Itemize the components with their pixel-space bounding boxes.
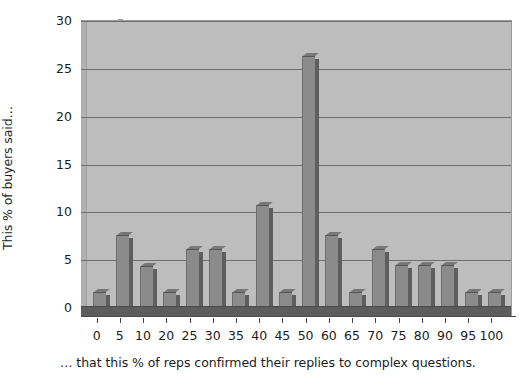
bar-side-face bbox=[269, 208, 273, 310]
x-axis-tick-mark bbox=[352, 318, 353, 323]
bar bbox=[465, 292, 478, 307]
bar-top-edge bbox=[233, 292, 245, 293]
bar-top-edge bbox=[466, 292, 478, 293]
y-axis-tick-labels: 051015202530 bbox=[42, 18, 72, 318]
bar-side-face bbox=[408, 268, 412, 310]
y-axis-tick-label: 0 bbox=[42, 300, 72, 315]
x-axis-tick-mark bbox=[468, 318, 469, 323]
x-axis-tick-mark bbox=[399, 318, 400, 323]
bar bbox=[418, 265, 431, 307]
y-axis-tick-label: 10 bbox=[42, 204, 72, 219]
bar-top-edge bbox=[257, 205, 269, 206]
bar bbox=[372, 249, 385, 307]
bar bbox=[140, 266, 153, 307]
x-axis-tick-labels: 05102025303540455060657075809095100 bbox=[81, 318, 512, 338]
bar bbox=[116, 235, 129, 307]
gridline bbox=[81, 212, 511, 213]
bar bbox=[302, 56, 315, 307]
bar-side-face bbox=[385, 252, 389, 310]
bar-top-edge bbox=[373, 249, 385, 250]
bar-side-face bbox=[315, 59, 319, 310]
x-axis-tick-mark bbox=[329, 318, 330, 323]
plot-left-wall bbox=[81, 21, 87, 316]
x-axis-tick-mark bbox=[491, 318, 492, 323]
bar bbox=[279, 292, 292, 307]
bar bbox=[186, 249, 199, 307]
bar-top-edge bbox=[210, 249, 222, 250]
x-axis-tick-mark bbox=[282, 318, 283, 323]
x-axis-tick-mark bbox=[375, 318, 376, 323]
x-axis-tick-mark bbox=[259, 318, 260, 323]
bar bbox=[256, 205, 269, 307]
bar bbox=[488, 292, 501, 307]
gridline bbox=[81, 117, 511, 118]
bar-top-edge bbox=[164, 292, 176, 293]
bar-top-edge bbox=[303, 56, 315, 57]
bar-top-edge bbox=[141, 266, 153, 267]
x-axis-tick-mark bbox=[166, 318, 167, 323]
bar-top-edge bbox=[326, 235, 338, 236]
bar-chart-figure: This % of buyers said… 051015202530 0510… bbox=[0, 0, 528, 386]
gridline bbox=[81, 69, 511, 70]
x-axis-caption: … that this % of reps confirmed their re… bbox=[60, 355, 500, 370]
bar-side-face bbox=[153, 269, 157, 310]
bar-top-edge bbox=[187, 249, 199, 250]
gridline bbox=[81, 165, 511, 166]
bar bbox=[163, 292, 176, 307]
bar bbox=[349, 292, 362, 307]
bar-top-edge bbox=[419, 265, 431, 266]
y-axis-tick-label: 15 bbox=[42, 156, 72, 171]
bar bbox=[232, 292, 245, 307]
bar bbox=[325, 235, 338, 307]
bar-top-edge bbox=[350, 292, 362, 293]
x-axis-tick-mark bbox=[143, 318, 144, 323]
bar-side-face bbox=[454, 268, 458, 310]
bar bbox=[395, 265, 408, 307]
x-axis-tick-mark bbox=[213, 318, 214, 323]
bar bbox=[93, 292, 106, 307]
x-axis-tick-mark bbox=[236, 318, 237, 323]
bar-side-face bbox=[222, 252, 226, 310]
bar bbox=[441, 265, 454, 307]
bar-top-edge bbox=[94, 292, 106, 293]
x-axis-tick-mark bbox=[190, 318, 191, 323]
y-axis-tick-label: 25 bbox=[42, 60, 72, 75]
x-axis-tick-mark bbox=[445, 318, 446, 323]
y-axis-title: This % of buyers said… bbox=[0, 13, 22, 343]
y-axis-tick-label: 30 bbox=[42, 13, 72, 28]
gridline bbox=[81, 21, 511, 22]
bar-top-edge bbox=[396, 265, 408, 266]
x-axis-tick-mark bbox=[306, 318, 307, 323]
bar-top-edge bbox=[442, 265, 454, 266]
bar-side-face bbox=[199, 252, 203, 310]
x-axis-line bbox=[81, 316, 516, 317]
plot-floor bbox=[81, 307, 511, 316]
bar-side-face bbox=[129, 238, 133, 310]
bar-top-edge bbox=[117, 235, 129, 236]
plot-area bbox=[81, 20, 512, 316]
bar-side-face bbox=[431, 268, 435, 310]
y-axis-tick-label: 5 bbox=[42, 252, 72, 267]
gridline bbox=[81, 260, 511, 261]
x-axis-tick-mark bbox=[422, 318, 423, 323]
bar bbox=[209, 249, 222, 307]
y-axis-tick-label: 20 bbox=[42, 108, 72, 123]
bar-top-edge bbox=[280, 292, 292, 293]
x-axis-tick-mark bbox=[97, 318, 98, 323]
x-axis-tick-label: 100 bbox=[474, 328, 508, 343]
x-axis-tick-mark bbox=[120, 318, 121, 323]
bar-side-face bbox=[338, 238, 342, 310]
bar-top-edge bbox=[489, 292, 501, 293]
